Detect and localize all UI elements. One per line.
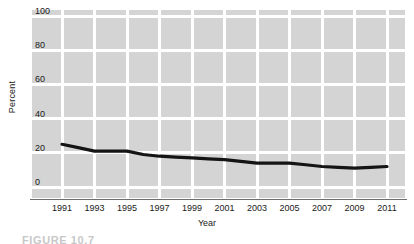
x-axis-tick-label: 2011 bbox=[367, 203, 407, 213]
y-axis-title: Percent bbox=[7, 67, 17, 127]
data-line-series bbox=[32, 10, 405, 198]
x-axis-title: Year bbox=[0, 218, 414, 228]
series-line bbox=[62, 144, 387, 168]
x-axis-line bbox=[30, 199, 407, 200]
figure-container: Percent 020406080100 1991199319951997199… bbox=[0, 0, 414, 244]
figure-caption: FIGURE 10.7 bbox=[22, 234, 95, 244]
